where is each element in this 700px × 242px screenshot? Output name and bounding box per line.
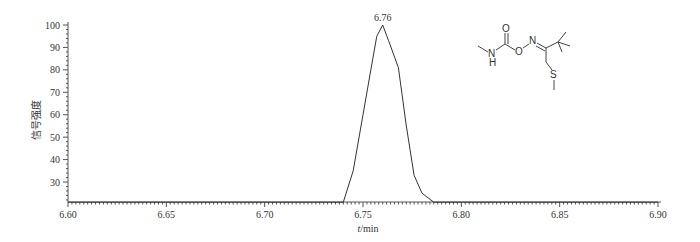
- x-axis-label: t/min: [357, 223, 378, 234]
- y-tick-label: 90: [50, 42, 60, 53]
- x-tick-label: 6.75: [354, 209, 372, 220]
- atom-N-oxime: N: [529, 35, 536, 46]
- y-tick-label: 100: [45, 20, 60, 31]
- chromatogram-trace: [68, 25, 658, 202]
- atom-O-ester: O: [515, 46, 523, 57]
- y-tick-label: 50: [50, 132, 60, 143]
- x-tick-label: 6.90: [649, 209, 667, 220]
- y-tick-label: 60: [50, 109, 60, 120]
- x-tick-label: 6.65: [158, 209, 176, 220]
- y-tick-label: 80: [50, 64, 60, 75]
- x-tick-label: 6.80: [453, 209, 471, 220]
- atom-O-carbonyl: O: [502, 23, 510, 34]
- x-tick-label: 6.60: [59, 209, 77, 220]
- atom-H: H: [489, 57, 496, 68]
- y-axis-label: 信号强度: [30, 100, 42, 140]
- x-tick-label: 6.85: [551, 209, 569, 220]
- x-axis: 6.606.656.706.756.806.856.90: [59, 202, 667, 220]
- chromatogram-chart: 30405060708090100 6.606.656.706.756.806.…: [0, 0, 700, 242]
- y-tick-label: 40: [50, 154, 60, 165]
- molecule-structure: N H O O N S: [478, 23, 570, 90]
- peak-label: 6.76: [374, 12, 392, 23]
- y-axis: 30405060708090100: [45, 20, 68, 203]
- y-tick-label: 70: [50, 87, 60, 98]
- atom-S: S: [550, 69, 557, 80]
- x-tick-label: 6.70: [256, 209, 274, 220]
- y-tick-label: 30: [50, 177, 60, 188]
